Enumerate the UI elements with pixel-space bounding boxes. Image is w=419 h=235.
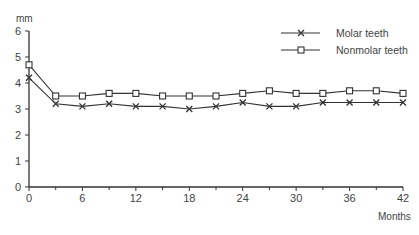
square-marker-icon [133,90,139,96]
legend-item: Nonmolar teeth [281,44,408,56]
x-tick-label: 18 [183,192,195,204]
square-marker-icon [293,90,299,96]
legend-label: Molar teeth [336,27,389,39]
square-marker-icon [373,88,379,94]
legend-label: Nonmolar teeth [336,44,408,56]
y-tick-label: 5 [15,51,21,63]
x-tick-label: 12 [130,192,142,204]
y-tick-label: 2 [15,129,21,141]
y-axis-label: mm [16,13,33,24]
square-marker-icon [266,88,272,94]
square-marker-icon [186,93,192,99]
square-marker-icon [298,47,304,53]
square-marker-icon [320,90,326,96]
series-nonmolar-teeth [26,62,406,99]
square-marker-icon [400,90,406,96]
y-tick-label: 4 [15,77,21,89]
square-marker-icon [347,88,353,94]
y-tick-label: 3 [15,103,21,115]
square-marker-icon [160,93,166,99]
square-marker-icon [26,62,32,68]
y-tick-label: 0 [15,181,21,193]
square-marker-icon [53,93,59,99]
line-chart: 012345606121824303642 Molar teethNonmola… [0,0,419,235]
x-tick-label: 24 [237,192,249,204]
square-marker-icon [240,90,246,96]
square-marker-icon [79,93,85,99]
x-tick-label: 0 [26,192,32,204]
y-tick-label: 6 [15,25,21,37]
series-layer [26,62,406,112]
legend: Molar teethNonmolar teeth [281,27,408,56]
x-axis-label: Months [378,211,411,222]
x-tick-label: 6 [79,192,85,204]
legend-item: Molar teeth [281,27,389,39]
x-tick-label: 36 [343,192,355,204]
x-tick-label: 42 [397,192,409,204]
x-tick-label: 30 [290,192,302,204]
y-tick-label: 1 [15,155,21,167]
square-marker-icon [213,93,219,99]
square-marker-icon [106,90,112,96]
